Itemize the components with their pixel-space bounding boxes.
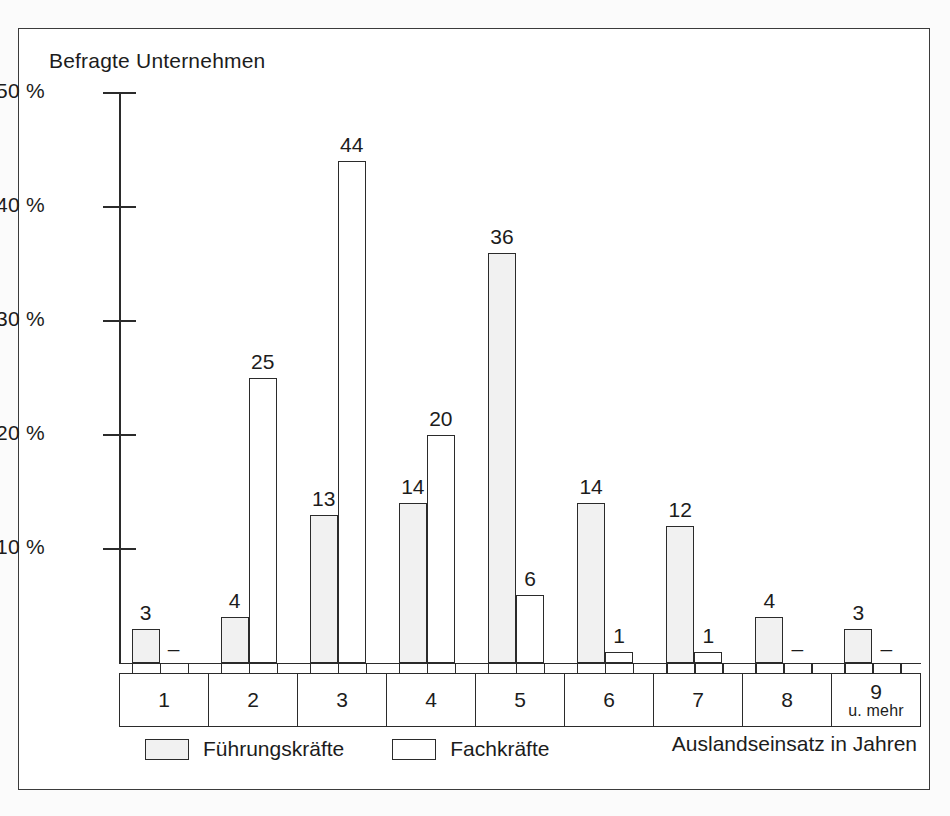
bar-value-label: 3 [122,601,170,625]
x-minor-tick [666,663,667,673]
x-minor-tick [310,663,311,673]
x-minor-tick [188,663,189,673]
legend-swatch-icon [392,739,436,760]
x-minor-tick [633,663,634,673]
y-axis-title: Befragte Unternehmen [49,49,265,73]
x-minor-tick [722,663,723,673]
x-minor-tick [577,663,578,673]
bar-fuehrungskraefte-8 [755,617,783,663]
bar-fuehrungskraefte-9 [844,629,872,663]
x-minor-tick [694,663,695,673]
bar-fuehrungskraefte-4 [399,503,427,663]
x-minor-tick [755,663,756,673]
x-minor-tick [399,663,400,673]
y-tick-label-20: 20 % [0,421,45,445]
legend: FührungskräfteFachkräfte [145,737,549,761]
x-category-label: 4 [425,689,437,711]
bar-value-label: 44 [328,133,376,157]
x-category-label: 5 [514,689,526,711]
x-category-cell-6: 6 [565,674,654,726]
x-category-cell-3: 3 [298,674,387,726]
x-minor-tick [516,663,517,673]
bar-fuehrungskraefte-5 [488,253,516,663]
bar-fachkraefte-6 [605,652,633,663]
x-minor-tick [160,663,161,673]
y-tick-label-40: 40 % [0,193,45,217]
bar-fuehrungskraefte-1 [132,629,160,663]
x-minor-tick [249,663,250,673]
x-minor-tick [488,663,489,673]
y-tick-label-30: 30 % [0,307,45,331]
x-axis-title: Auslandseinsatz in Jahren [672,732,917,756]
x-category-cell-8: 8 [743,674,832,726]
x-category-label: 9 [870,681,882,703]
bar-fuehrungskraefte-2 [221,617,249,663]
x-category-cell-5: 5 [476,674,565,726]
bar-fachkraefte-5 [516,595,544,663]
legend-label: Führungskräfte [203,737,344,761]
bar-value-label: 14 [567,475,615,499]
bar-fuehrungskraefte-3 [310,515,338,663]
x-minor-tick [221,663,222,673]
x-category-label: 2 [247,689,259,711]
legend-label: Fachkräfte [450,737,549,761]
x-minor-tick [900,663,901,673]
bar-dash-fachkräfte-1: – [160,637,188,661]
bar-fachkraefte-3 [338,161,366,663]
x-minor-tick [366,663,367,673]
bars-layer: 3–425134414203661411214–3– [119,93,921,663]
x-category-label: 3 [336,689,348,711]
chart-frame: Befragte Unternehmen 50 %40 %30 %20 %10 … [18,28,930,790]
x-axis-category-row: 123456789u. mehr [119,673,921,727]
bar-value-label: 25 [239,350,287,374]
bar-dash-fachkräfte-8: – [783,637,811,661]
y-tick-label-10: 10 % [0,535,45,559]
legend-item-fachkraefte: Fachkräfte [392,737,549,761]
x-minor-tick [427,663,428,673]
bar-value-label: 12 [656,498,704,522]
bar-value-label: 4 [745,589,793,613]
x-minor-tick [277,663,278,673]
bar-fachkraefte-7 [694,652,722,663]
bar-fachkraefte-2 [249,378,277,663]
x-category-cell-9: 9u. mehr [832,674,920,726]
legend-swatch-icon [145,739,189,760]
x-minor-tick [811,663,812,673]
chart-canvas: Befragte Unternehmen 50 %40 %30 %20 %10 … [0,0,950,816]
x-category-label: 1 [158,689,170,711]
x-category-sublabel: u. mehr [848,703,904,720]
x-minor-tick [783,663,784,673]
bar-value-label: 20 [417,407,465,431]
x-minor-tick [605,663,606,673]
bar-fuehrungskraefte-6 [577,503,605,663]
x-minor-tick [844,663,845,673]
x-category-label: 7 [692,689,704,711]
y-tick-label-50: 50 % [0,79,45,103]
bar-value-label: 3 [834,601,882,625]
x-minor-tick [455,663,456,673]
x-minor-tick [872,663,873,673]
bar-fuehrungskraefte-7 [666,526,694,663]
x-category-label: 6 [603,689,615,711]
x-category-label: 8 [781,689,793,711]
legend-item-fuehrungskraefte: Führungskräfte [145,737,344,761]
bar-dash-fachkräfte-9: – [872,637,900,661]
bar-value-label: 36 [478,225,526,249]
x-category-cell-2: 2 [209,674,298,726]
bar-fachkraefte-4 [427,435,455,663]
x-minor-tick [544,663,545,673]
x-category-cell-4: 4 [387,674,476,726]
x-minor-tick [132,663,133,673]
x-category-cell-1: 1 [120,674,209,726]
x-minor-tick [338,663,339,673]
x-category-cell-7: 7 [654,674,743,726]
